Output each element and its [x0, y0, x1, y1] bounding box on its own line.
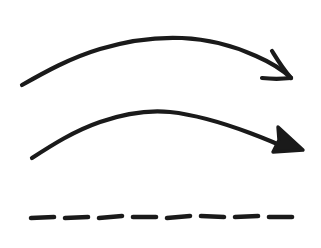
dash-segment	[31, 217, 54, 218]
dash-segment	[65, 217, 88, 218]
sketch-drawing-surface	[0, 0, 321, 248]
dash-segment	[235, 216, 258, 217]
dash-segment	[99, 216, 122, 218]
dash-segment	[201, 216, 224, 217]
arrowhead-barb-lower-top	[262, 78, 291, 79]
sketch-canvas	[0, 0, 321, 248]
dash-segment	[167, 216, 190, 218]
